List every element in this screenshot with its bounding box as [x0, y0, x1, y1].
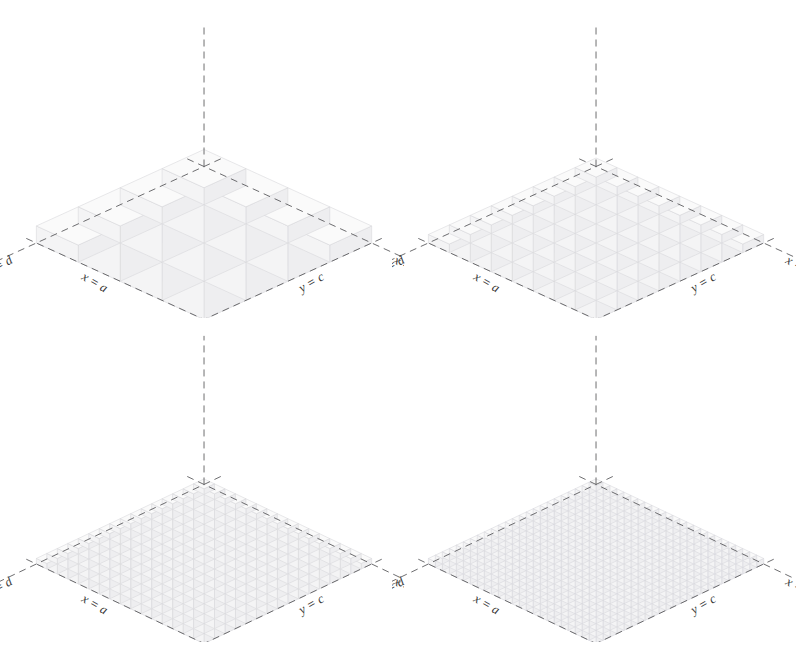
axis-label-y-d: y = d: [392, 573, 407, 601]
axis-label-x-b: x = b: [782, 573, 796, 601]
page-header-fragment: [0, 0, 807, 7]
panel-bottom-right: x = by = dx = ay = c: [392, 330, 796, 642]
panel-top-left: x = by = dx = ay = c: [0, 18, 404, 318]
riemann-sum-figure: x = by = dx = ay = c x = by = dx = ay = …: [0, 0, 807, 648]
panel-top-right: x = by = dx = ay = c: [392, 18, 796, 318]
axis-label-x-b: x = b: [782, 252, 796, 280]
axis-label-y-d: y = d: [392, 252, 407, 280]
panel-bottom-left: x = by = dx = ay = c: [0, 330, 404, 642]
axis-label-y-d: y = d: [0, 573, 15, 601]
axis-label-y-d: y = d: [0, 252, 15, 280]
